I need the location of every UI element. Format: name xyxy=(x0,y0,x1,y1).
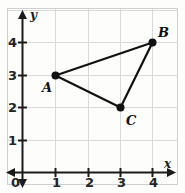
x-axis-label: x xyxy=(164,158,171,170)
coordinate-plane-figure: 4 3 2 1 1 2 3 4 0 y x A B C xyxy=(0,0,185,193)
x-tick-label-4: 4 xyxy=(149,176,158,189)
vertex-label-a: A xyxy=(42,81,52,94)
point-b xyxy=(149,39,157,47)
point-a xyxy=(52,72,60,80)
point-c xyxy=(117,104,125,112)
vertex-label-b: B xyxy=(158,26,169,39)
y-tick-label-2: 2 xyxy=(8,101,17,114)
y-tick-label-3: 3 xyxy=(8,69,17,82)
x-tick-label-3: 3 xyxy=(117,176,126,189)
x-tick-label-1: 1 xyxy=(52,176,61,189)
y-tick-label-1: 1 xyxy=(8,134,17,147)
x-tick-label-2: 2 xyxy=(85,176,94,189)
vertex-label-c: C xyxy=(126,114,136,127)
origin-label: 0 xyxy=(11,176,20,189)
y-axis-label: y xyxy=(30,9,37,21)
y-tick-label-4: 4 xyxy=(8,36,17,49)
